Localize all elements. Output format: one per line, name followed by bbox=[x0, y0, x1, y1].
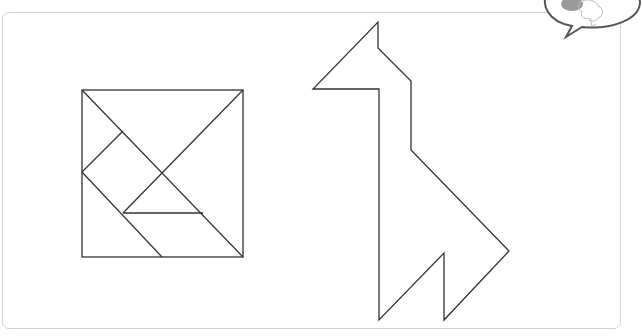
speech-bubble bbox=[545, 0, 640, 37]
tangram-piece-edge bbox=[82, 131, 123, 172]
tangram-square bbox=[82, 90, 243, 257]
giraffe-silhouette bbox=[313, 22, 509, 320]
worksheet-canvas bbox=[0, 0, 642, 336]
speech-bubble-outline bbox=[545, 0, 640, 37]
